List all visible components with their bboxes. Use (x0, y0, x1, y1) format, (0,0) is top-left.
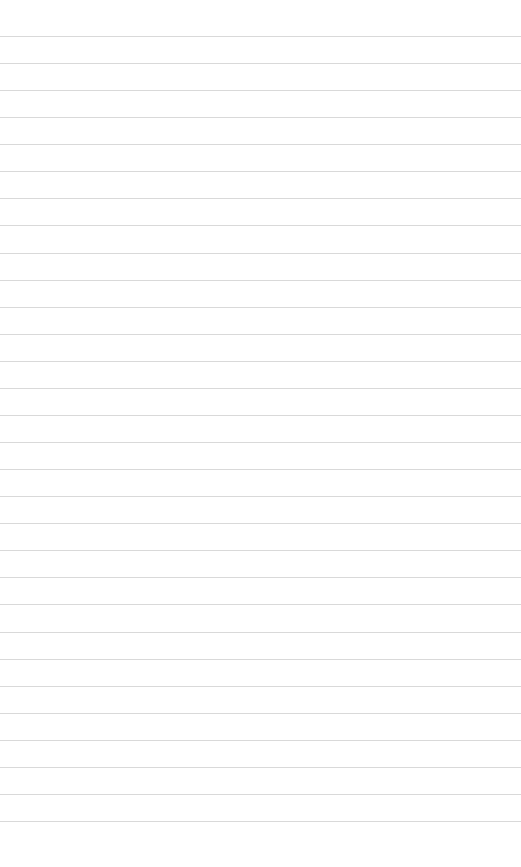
ruled-line (0, 659, 521, 660)
ruled-line (0, 713, 521, 714)
ruled-line (0, 686, 521, 687)
ruled-line (0, 63, 521, 64)
ruled-line (0, 496, 521, 497)
ruled-line (0, 632, 521, 633)
ruled-line (0, 794, 521, 795)
ruled-line (0, 361, 521, 362)
ruled-line (0, 442, 521, 443)
ruled-line (0, 604, 521, 605)
ruled-line (0, 36, 521, 37)
ruled-line (0, 117, 521, 118)
ruled-line (0, 821, 521, 822)
ruled-line (0, 415, 521, 416)
ruled-line (0, 388, 521, 389)
ruled-line (0, 90, 521, 91)
ruled-line (0, 171, 521, 172)
ruled-line (0, 469, 521, 470)
ruled-line (0, 550, 521, 551)
lined-paper-page (0, 0, 521, 867)
ruled-line (0, 253, 521, 254)
ruled-line (0, 334, 521, 335)
ruled-line (0, 144, 521, 145)
ruled-line (0, 307, 521, 308)
ruled-line (0, 198, 521, 199)
ruled-line (0, 577, 521, 578)
ruled-line (0, 767, 521, 768)
ruled-line (0, 523, 521, 524)
ruled-line (0, 225, 521, 226)
ruled-line (0, 740, 521, 741)
ruled-line (0, 280, 521, 281)
